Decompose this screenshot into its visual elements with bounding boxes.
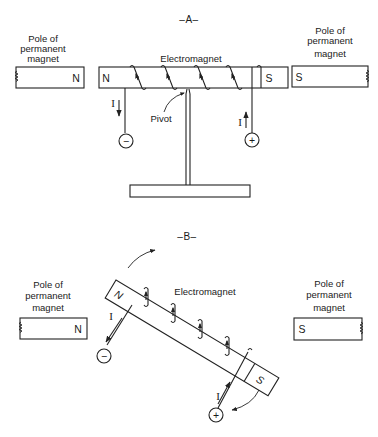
electromagnet-b: Electromagnet N S bbox=[105, 280, 279, 396]
stand-base bbox=[130, 185, 250, 197]
svg-text:Pole of: Pole of bbox=[314, 278, 344, 289]
svg-text:permanent: permanent bbox=[306, 289, 352, 300]
svg-text:+: + bbox=[249, 134, 255, 146]
svg-text:−: − bbox=[101, 350, 107, 362]
left-permanent-magnet: Pole of permanent magnet N bbox=[15, 33, 84, 88]
panel-b: –B– Pole of permanent magnet N Pole of p… bbox=[19, 231, 363, 422]
svg-text:S: S bbox=[298, 323, 305, 335]
pivot-pointer-arrow bbox=[164, 93, 184, 112]
current-label: I bbox=[238, 116, 242, 128]
left-permanent-magnet-b: Pole of permanent magnet N bbox=[19, 279, 87, 339]
svg-text:+: + bbox=[213, 409, 219, 421]
panel-a-title: –A– bbox=[179, 14, 198, 25]
svg-text:magnet: magnet bbox=[32, 302, 64, 313]
electromagnet-a: Electromagnet N S bbox=[99, 53, 288, 90]
electromagnet-bar bbox=[99, 67, 288, 88]
right-permanent-magnet-b: Pole of permanent magnet S bbox=[294, 278, 363, 340]
magnet-label-line2: permanent bbox=[307, 35, 353, 46]
svg-text:magnet: magnet bbox=[313, 302, 345, 313]
right-permanent-magnet: Pole of permanent magnet S bbox=[292, 25, 369, 87]
electromagnet-bar bbox=[105, 280, 279, 396]
current-label: I bbox=[111, 97, 115, 109]
svg-text:N: N bbox=[74, 323, 82, 335]
magnet-label-line3: magnet bbox=[27, 53, 59, 64]
pole-label: S bbox=[295, 71, 302, 83]
magnet-label-line3: magnet bbox=[314, 48, 346, 59]
rotation-arrow-up-icon bbox=[128, 250, 155, 268]
electromagnet-diagram: –A– Pole of permanent magnet N Pole of p… bbox=[0, 0, 378, 437]
negative-lead-a: I − bbox=[111, 88, 133, 148]
electromagnet-label: Electromagnet bbox=[160, 53, 222, 64]
negative-lead-b: I − bbox=[97, 305, 132, 363]
svg-text:−: − bbox=[123, 135, 129, 147]
pivot-stand: Pivot bbox=[130, 89, 250, 197]
magnet-body bbox=[292, 66, 368, 87]
panel-b-title: –B– bbox=[177, 231, 196, 242]
current-label: I bbox=[109, 310, 113, 322]
pole-label: N bbox=[72, 72, 80, 84]
svg-text:Pole of: Pole of bbox=[33, 279, 63, 290]
panel-a: –A– Pole of permanent magnet N Pole of p… bbox=[15, 14, 369, 197]
pole-label-n: N bbox=[102, 72, 110, 84]
pivot-label: Pivot bbox=[150, 113, 171, 124]
electromagnet-label: Electromagnet bbox=[174, 286, 236, 297]
rotation-arrow-down-icon bbox=[232, 390, 259, 410]
pole-label-s: S bbox=[265, 72, 272, 84]
svg-text:permanent: permanent bbox=[25, 290, 71, 301]
